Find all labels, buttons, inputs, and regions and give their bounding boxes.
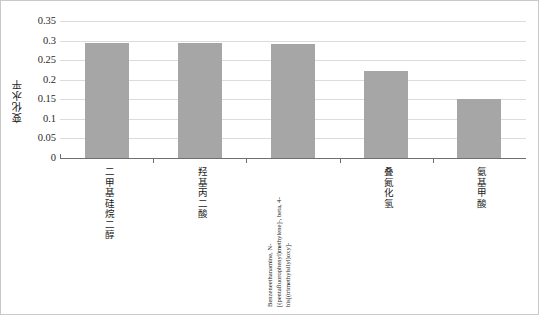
bar bbox=[85, 43, 129, 158]
gridline bbox=[60, 41, 526, 42]
bar bbox=[364, 71, 408, 158]
x-axis-tick bbox=[340, 158, 341, 163]
x-axis-category-label: 氨基甲酸 bbox=[473, 167, 486, 209]
y-axis-tick-label: 0.05 bbox=[38, 133, 56, 144]
x-axis-line bbox=[60, 158, 526, 159]
x-axis-category-label: 羟基丙二酸 bbox=[194, 167, 207, 220]
y-axis-tick-label: 0.35 bbox=[38, 16, 56, 27]
y-axis-tick-labels: 00.050.10.150.20.250.30.35 bbox=[1, 1, 56, 315]
bar bbox=[457, 99, 501, 158]
bar-chart: 00.050.10.150.20.250.30.35 变化水平 二甲基硅烷二醇羟… bbox=[0, 0, 539, 315]
y-axis-title: 变化水平 bbox=[10, 61, 26, 141]
plot-area bbox=[60, 21, 526, 158]
bar bbox=[271, 44, 315, 158]
gridline bbox=[60, 21, 526, 22]
x-axis-category-label: 叠氮化氢 bbox=[380, 167, 393, 209]
x-axis-tick bbox=[246, 158, 247, 163]
y-axis-tick-label: 0.25 bbox=[38, 55, 56, 66]
y-axis-tick-label: 0.2 bbox=[43, 74, 56, 85]
y-axis-tick-label: 0.1 bbox=[43, 114, 56, 125]
y-axis-tick-label: 0.3 bbox=[43, 35, 56, 46]
bar bbox=[178, 43, 222, 158]
y-axis-tick-label: 0 bbox=[51, 153, 56, 164]
x-axis-tick bbox=[433, 158, 434, 163]
x-axis-category-label: 二甲基硅烷二醇 bbox=[101, 167, 114, 241]
x-axis-category-label: Benzeneethanamine, N-[(pentafluorophenyl… bbox=[265, 167, 321, 307]
x-axis-tick bbox=[153, 158, 154, 163]
y-axis-tick-label: 0.15 bbox=[38, 94, 56, 105]
